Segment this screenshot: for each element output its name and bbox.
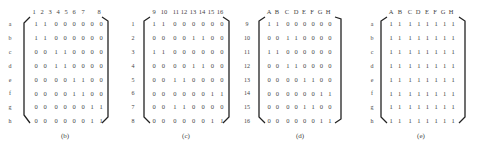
row-label: d — [4, 62, 16, 70]
row-label: f — [4, 89, 16, 97]
matrix-cell: 0 — [40, 62, 50, 70]
matrix-cell: 1 — [395, 103, 405, 111]
row-label: 2 — [127, 34, 139, 42]
matrix-cell: 0 — [40, 103, 50, 111]
row-label: c — [366, 48, 378, 56]
matrix-cell: 1 — [448, 90, 458, 98]
matrix-cell: 0 — [96, 34, 106, 42]
matrix-cell: 1 — [395, 48, 405, 56]
matrix-cell: 0 — [217, 103, 227, 111]
matrix-cell: 1 — [395, 76, 405, 84]
matrix-cell: 0 — [217, 20, 227, 28]
matrix-cell: 0 — [158, 117, 168, 125]
matrix-cell: 1 — [448, 34, 458, 42]
matrix-cell: 0 — [217, 62, 227, 70]
row-label: g — [4, 103, 16, 111]
row-label: 8 — [127, 117, 139, 125]
matrix-panel-e: A B C D E F G H a b c d e f g h 11111111… — [355, 0, 479, 152]
matrix-cell: 0 — [325, 34, 335, 42]
matrix-cell: 1 — [448, 62, 458, 70]
matrix-cell: 0 — [40, 117, 50, 125]
row-label: 14 — [241, 89, 253, 97]
figure-caption: (c) — [171, 132, 201, 140]
matrix-cell: 0 — [158, 34, 168, 42]
column-label: 10 — [158, 8, 170, 16]
row-label: a — [366, 20, 378, 28]
matrix-cell: 0 — [96, 20, 106, 28]
row-label: e — [4, 76, 16, 84]
matrix-panel-d: A B C D E F G H 9 10 11 12 13 14 15 16 1… — [240, 0, 350, 152]
matrix-cell: 0 — [96, 48, 106, 56]
matrix-cell: 0 — [40, 90, 50, 98]
matrix-cell: 0 — [96, 76, 106, 84]
matrix-cell: 0 — [158, 90, 168, 98]
matrix-panel-c: 9 10 11 12 13 14 15 16 1 2 3 4 5 6 7 8 1… — [120, 0, 230, 152]
matrix-cell: 1 — [395, 20, 405, 28]
row-label: e — [366, 76, 378, 84]
matrix-cell: 0 — [40, 48, 50, 56]
matrix-cell: 1 — [448, 117, 458, 125]
matrix-cell: 1 — [448, 48, 458, 56]
column-label: 7 — [77, 8, 89, 16]
matrix-cell: 1 — [395, 117, 405, 125]
figure-caption: (d) — [285, 132, 315, 140]
row-label: a — [4, 20, 16, 28]
row-label: 7 — [127, 103, 139, 111]
matrix-cell: 1 — [448, 103, 458, 111]
matrix-panel-b: 1 2 3 4 5 6 7 8 a b c d e f g h 11000000… — [0, 0, 120, 152]
matrix-cell: 0 — [272, 62, 282, 70]
matrix-cell: 0 — [272, 117, 282, 125]
matrix-cell: 1 — [40, 34, 50, 42]
matrix-cell: 1 — [395, 34, 405, 42]
matrix-cell: 1 — [325, 90, 335, 98]
row-label: b — [366, 34, 378, 42]
row-label: 15 — [241, 103, 253, 111]
matrix-cell: 0 — [272, 90, 282, 98]
row-label: 16 — [241, 117, 253, 125]
matrix-cell: 1 — [40, 20, 50, 28]
row-label: f — [366, 89, 378, 97]
row-label: d — [366, 62, 378, 70]
row-label: 6 — [127, 89, 139, 97]
matrix-cell: 0 — [217, 76, 227, 84]
right-bracket — [457, 15, 467, 127]
matrix-cell: 1 — [217, 90, 227, 98]
matrix-cell: 0 — [325, 76, 335, 84]
matrix-cell: 1 — [272, 48, 282, 56]
row-label: 9 — [241, 20, 253, 28]
figure-caption: (e) — [406, 132, 436, 140]
matrix-cell: 0 — [272, 34, 282, 42]
matrix-cell: 0 — [40, 76, 50, 84]
column-label: H — [445, 8, 457, 16]
row-label: 1 — [127, 20, 139, 28]
row-label: 4 — [127, 62, 139, 70]
row-label: 3 — [127, 48, 139, 56]
matrix-cell: 0 — [96, 62, 106, 70]
matrix-cell: 0 — [217, 34, 227, 42]
matrix-cell: 0 — [96, 90, 106, 98]
row-label: 10 — [241, 34, 253, 42]
figure-caption: (b) — [50, 132, 80, 140]
matrix-cell: 0 — [325, 20, 335, 28]
matrix-cell: 1 — [448, 20, 458, 28]
matrix-cell: 0 — [158, 76, 168, 84]
row-label: c — [4, 48, 16, 56]
matrix-cell: 0 — [325, 48, 335, 56]
matrix-cell: 0 — [325, 103, 335, 111]
matrix-cell: 1 — [96, 117, 106, 125]
matrix-cell: 1 — [96, 103, 106, 111]
row-label: h — [366, 117, 378, 125]
row-label: 11 — [241, 48, 253, 56]
matrix-cell: 1 — [217, 117, 227, 125]
matrix-cell: 0 — [325, 62, 335, 70]
matrix-cell: 0 — [217, 48, 227, 56]
matrix-cell: 1 — [395, 90, 405, 98]
matrix-cell: 1 — [325, 117, 335, 125]
matrix-cell: 1 — [158, 20, 168, 28]
matrix-cell: 1 — [448, 76, 458, 84]
matrix-cell: 0 — [158, 62, 168, 70]
row-label: b — [4, 34, 16, 42]
row-label: 13 — [241, 76, 253, 84]
row-label: 12 — [241, 62, 253, 70]
matrix-cell: 1 — [158, 48, 168, 56]
